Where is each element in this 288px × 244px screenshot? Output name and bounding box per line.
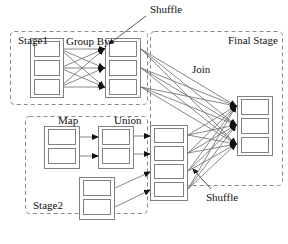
stage2-extra-group [80, 178, 115, 220]
stage1-groupby-task-1 [110, 42, 137, 57]
union-group [151, 126, 188, 201]
stage2-map-edges [80, 137, 98, 156]
join-edge [141, 87, 236, 125]
stage1-input-task-3 [35, 80, 60, 95]
final-shuffle-edge [188, 106, 236, 189]
union-task-2 [155, 147, 184, 161]
extra-to-union-edges [115, 172, 150, 207]
stage1-groupby-group [106, 39, 141, 98]
stage1-groupby-shuffle-edges [60, 49, 105, 87]
final-stage-label: Final Stage [228, 34, 278, 46]
final-shuffle-edges [188, 106, 236, 189]
union-task-4 [155, 183, 184, 197]
final-result-task-3 [242, 138, 269, 153]
map-label: Map [58, 114, 79, 126]
stage2-extra-task-1 [84, 181, 111, 196]
stage2-input-task-2 [49, 149, 76, 164]
stage1-groupby-task-2 [110, 61, 137, 76]
union-task-3 [155, 165, 184, 179]
union-edge [115, 172, 150, 188]
stage2-extra-task-2 [84, 200, 111, 215]
group-by-label: Group By [66, 35, 110, 47]
final-result-task-2 [242, 119, 269, 134]
join-label: Join [192, 63, 211, 75]
stage2-map-task-1 [103, 130, 130, 145]
union-task-1 [155, 129, 184, 143]
shuffle-top-label: Shuffle [150, 3, 182, 15]
join-edge [141, 68, 236, 106]
stage2-map-task-2 [103, 149, 130, 164]
stage2-map-group [99, 127, 134, 169]
stage1-label: Stage1 [18, 34, 48, 46]
union-edge [115, 190, 150, 207]
final-shuffle-edge [188, 125, 236, 189]
stage2-input-task-1 [49, 130, 76, 145]
join-edge [141, 49, 236, 106]
stage2-input-group [45, 127, 80, 169]
figure-canvas: Stage1 Group By Shuffle Final Stage Join… [0, 0, 288, 244]
join-edge [141, 87, 236, 106]
final-result-task-1 [242, 100, 269, 115]
stage1-input-group [31, 39, 64, 98]
union-label: Union [114, 114, 142, 126]
shuffle-bottom-label: Shuffle [206, 191, 238, 203]
stage1-input-task-2 [35, 61, 60, 76]
stage-dataflow-diagram: Stage1 Group By Shuffle Final Stage Join… [0, 0, 288, 244]
stage2-label: Stage2 [33, 199, 63, 211]
stage1-groupby-task-3 [110, 80, 137, 95]
final-result-group [238, 97, 273, 156]
